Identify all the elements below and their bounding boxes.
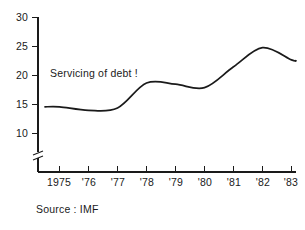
x-tick-label-83: '83 xyxy=(284,177,298,188)
chart-figure: 30 25 20 15 10 1975 '76 '77 '78 '79 '80 … xyxy=(0,0,305,230)
x-tick-label-81: '81 xyxy=(227,177,241,188)
y-axis-ticks xyxy=(32,18,38,134)
x-tick-label-78: '78 xyxy=(140,177,154,188)
y-tick-label-15: 15 xyxy=(6,99,28,110)
x-axis-ticks xyxy=(60,166,292,172)
chart-plot-area xyxy=(0,0,305,230)
y-tick-label-20: 20 xyxy=(6,70,28,81)
source-note: Source : IMF xyxy=(36,203,99,215)
x-tick-label-80: '80 xyxy=(198,177,212,188)
x-tick-label-82: '82 xyxy=(256,177,270,188)
y-tick-label-10: 10 xyxy=(6,128,28,139)
x-tick-label-79: '79 xyxy=(169,177,183,188)
x-tick-label-1975: 1975 xyxy=(47,177,71,188)
x-tick-label-76: '76 xyxy=(82,177,96,188)
y-tick-label-25: 25 xyxy=(6,41,28,52)
x-tick-label-77: '77 xyxy=(111,177,125,188)
y-tick-label-30: 30 xyxy=(6,12,28,23)
data-series-line xyxy=(45,48,296,111)
series-annotation-label: Servicing of debt ! xyxy=(50,67,138,79)
